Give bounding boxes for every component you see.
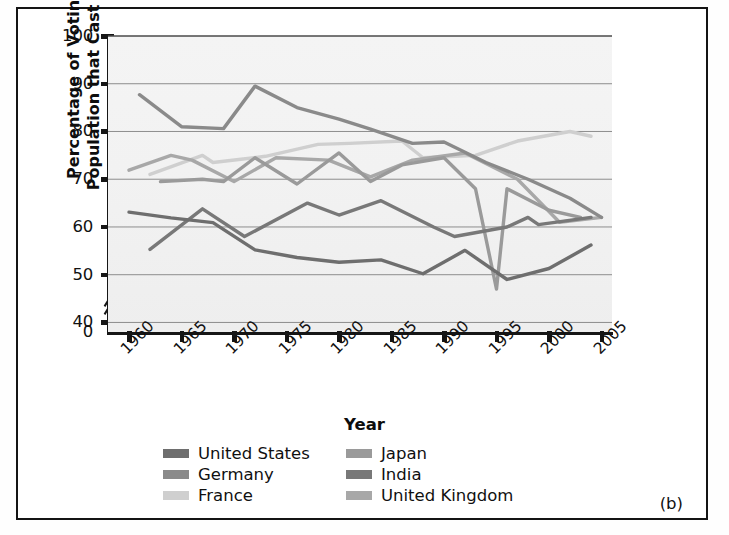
legend-label-japan: Japan — [381, 444, 427, 463]
y-tick-label: 60 — [72, 217, 93, 236]
y-tick-label: 80 — [72, 121, 93, 140]
legend-entry-india: India — [346, 464, 546, 485]
legend-swatch-germany — [163, 470, 189, 479]
plot-area-wrapper — [108, 36, 612, 332]
series-line-united-states — [129, 212, 591, 279]
chart-legend: United StatesJapanGermanyIndiaFranceUnit… — [163, 443, 546, 506]
legend-swatch-france — [163, 491, 189, 500]
legend-swatch-india — [346, 470, 372, 479]
series-line-germany — [140, 86, 602, 217]
legend-entry-japan: Japan — [346, 443, 546, 464]
y-tick-label: 90 — [72, 74, 93, 93]
legend-label-india: India — [381, 465, 422, 484]
y-tick-label: 50 — [72, 265, 93, 284]
legend-entry-germany: Germany — [163, 464, 338, 485]
panel-label: (b) — [660, 494, 683, 513]
y-tick-label: 100 — [62, 26, 93, 45]
legend-entry-united-kingdom: United Kingdom — [346, 485, 546, 506]
legend-entry-france: France — [163, 485, 338, 506]
legend-label-united-states: United States — [198, 444, 310, 463]
legend-swatch-japan — [346, 449, 372, 458]
x-axis-title: Year — [0, 415, 729, 434]
legend-label-france: France — [198, 486, 253, 505]
data-series-layer — [108, 36, 612, 332]
legend-swatch-united-states — [163, 449, 189, 458]
legend-label-united-kingdom: United Kingdom — [381, 486, 513, 505]
figure-panel: Percentage of Voting Age Population that… — [0, 0, 729, 535]
y-tick-label: 70 — [72, 169, 93, 188]
y-axis-ticks: 1009080706050400 — [0, 0, 107, 340]
y-tick-label: 0 — [83, 322, 93, 341]
legend-entry-united-states: United States — [163, 443, 338, 464]
legend-swatch-united-kingdom — [346, 491, 372, 500]
series-line-france — [150, 131, 591, 174]
legend-label-germany: Germany — [198, 465, 274, 484]
